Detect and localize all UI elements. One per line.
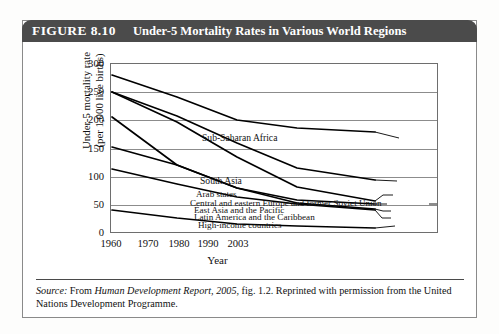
x-tick-2003: 2003	[223, 238, 253, 249]
chart-area: Under-5 mortality rate (per 1,000 live b…	[22, 42, 477, 270]
y-tick-150: 150	[72, 143, 104, 154]
series-label-high-income-countries: High-income countries	[198, 221, 282, 231]
line-sub-saharan-africa	[112, 75, 375, 132]
x-axis-title: Year	[110, 254, 325, 266]
plot-frame: Sub-Saharan Africa South Asia Arab state…	[110, 63, 438, 233]
y-tick-50: 50	[72, 199, 104, 210]
leader-south-asia	[375, 180, 397, 181]
leader-sub-saharan-africa	[375, 132, 399, 138]
x-tick-1980: 1980	[164, 238, 194, 249]
y-tick-300: 300	[72, 58, 104, 69]
x-tick-1960: 1960	[96, 238, 126, 249]
y-tick-0: 0	[72, 227, 104, 238]
y-tick-250: 250	[72, 86, 104, 97]
source-divider	[36, 279, 464, 280]
leader-high-income	[375, 226, 395, 228]
series-label-sub-saharan-africa: Sub-Saharan Africa	[202, 133, 277, 143]
x-tick-1990: 1990	[193, 238, 223, 249]
leader-east-asia	[375, 209, 391, 211]
source-citation-italic: Human Development Report, 2005	[94, 285, 236, 296]
source-label: Source:	[36, 285, 67, 296]
source-note: Source: From Human Development Report, 2…	[36, 285, 466, 310]
y-tick-200: 200	[72, 114, 104, 125]
figure-title: Under-5 Mortality Rates in Various World…	[133, 24, 407, 39]
series-label-south-asia: South Asia	[200, 176, 242, 186]
x-tick-1970: 1970	[133, 238, 163, 249]
y-tick-100: 100	[72, 171, 104, 182]
figure-root: FIGURE 8.10 Under-5 Mortality Rates in V…	[0, 0, 499, 334]
source-text-1: From	[67, 285, 94, 296]
